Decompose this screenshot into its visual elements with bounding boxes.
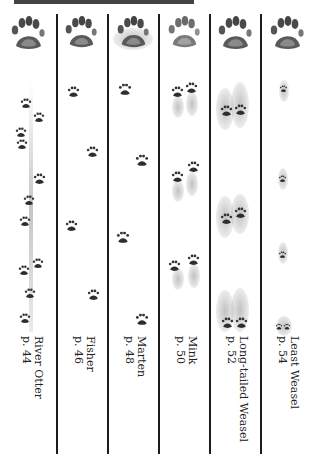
- track-icon: [19, 97, 33, 109]
- paw-print-icon: [114, 16, 152, 50]
- track-icon: [220, 316, 235, 329]
- track-icon: [17, 264, 31, 276]
- track-icon: [186, 253, 201, 266]
- track-icon: [85, 145, 100, 158]
- species-name: Mink: [186, 336, 198, 365]
- species-name: Least Weasel: [288, 336, 300, 409]
- track-icon: [184, 81, 199, 94]
- track-icon: [186, 160, 201, 173]
- track-icon: [22, 194, 36, 206]
- paw-print-icon: [215, 16, 255, 52]
- track-icon: [14, 126, 28, 138]
- fur-smear: [172, 96, 184, 118]
- fur-smear: [188, 264, 200, 288]
- species-label: Least Weasel p. 54: [276, 336, 300, 409]
- track-icon: [233, 103, 248, 116]
- track-icon: [134, 153, 150, 167]
- track-icon: [170, 170, 185, 183]
- track-icon: [278, 250, 287, 259]
- page-reference: p. 46: [72, 336, 84, 372]
- fur-smear: [172, 180, 184, 202]
- page-reference: p. 54: [276, 336, 288, 409]
- track-icon: [86, 288, 101, 301]
- species-label: River Otter p. 44: [20, 336, 44, 399]
- track-icon: [32, 172, 47, 185]
- species-label: Mink p. 50: [174, 336, 198, 365]
- track-icon: [234, 316, 249, 329]
- page-reference: p. 52: [225, 336, 237, 442]
- track-icon: [219, 212, 234, 225]
- track-icon: [23, 287, 37, 299]
- species-label: Fisher p. 46: [72, 336, 96, 372]
- species-name: Marten: [135, 336, 147, 377]
- species-label: Long-tailed Weasel p. 52: [225, 336, 249, 442]
- column-mink: Mink p. 50: [160, 0, 209, 467]
- column-river-otter: River Otter p. 44: [0, 0, 56, 467]
- track-icon: [64, 219, 79, 232]
- track-icon: [279, 84, 288, 93]
- paw-print-icon: [62, 16, 100, 50]
- column-least-weasel: Least Weasel p. 54: [262, 0, 312, 467]
- species-name: Long-tailed Weasel: [237, 336, 249, 442]
- track-icon: [117, 82, 133, 96]
- column-long-tailed-weasel: Long-tailed Weasel p. 52: [211, 0, 260, 467]
- column-marten: Marten p. 48: [109, 0, 158, 467]
- species-label: Marten p. 48: [123, 336, 147, 377]
- track-icon: [115, 230, 131, 244]
- page-reference: p. 50: [174, 336, 186, 365]
- track-icon: [278, 174, 287, 183]
- paw-print-icon: [8, 16, 48, 52]
- species-name: River Otter: [32, 336, 44, 399]
- track-icon: [283, 322, 291, 331]
- fur-smear: [186, 92, 198, 116]
- paw-print-icon: [267, 16, 307, 52]
- track-icon: [66, 85, 81, 98]
- page-reference: p. 48: [123, 336, 135, 377]
- species-name: Fisher: [84, 336, 96, 372]
- track-icon: [15, 138, 29, 150]
- track-icon: [134, 312, 150, 326]
- track-icon: [32, 111, 46, 123]
- track-icon: [233, 206, 248, 219]
- paw-print-icon: [165, 16, 203, 50]
- track-icon: [275, 322, 283, 331]
- page-reference: p. 44: [20, 336, 32, 399]
- fur-smear: [186, 172, 198, 196]
- track-icon: [167, 259, 182, 272]
- track-icon: [219, 104, 234, 117]
- track-icon: [18, 312, 32, 324]
- column-fisher: Fisher p. 46: [58, 0, 107, 467]
- track-icon: [31, 257, 45, 269]
- track-icon: [170, 85, 185, 98]
- track-icon: [18, 215, 32, 227]
